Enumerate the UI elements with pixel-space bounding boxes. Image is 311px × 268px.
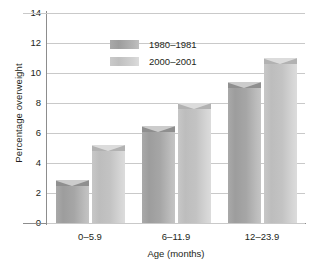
y-tick-label: 8 [11, 98, 41, 108]
y-tick-label: 12 [11, 38, 41, 48]
y-tick-label: 2 [11, 188, 41, 198]
bar-body [264, 64, 297, 223]
legend-label-2000-2001: 2000–2001 [149, 57, 197, 67]
bar-body [56, 186, 89, 224]
y-tick-label: 6 [11, 128, 41, 138]
bar-body [228, 88, 261, 223]
x-tick-label: 6–11.9 [133, 231, 219, 242]
bar-body [92, 151, 125, 223]
bar [264, 58, 297, 223]
plot-area: 1980–1981 2000–2001 [47, 13, 305, 223]
x-axis-tick-labels: 0–5.96–11.912–23.9 [47, 231, 305, 243]
legend-swatch-2000-2001 [110, 57, 139, 66]
x-axis-title: Age (months) [47, 248, 305, 259]
legend-item: 2000–2001 [110, 55, 240, 68]
y-tick-label: 4 [11, 158, 41, 168]
x-tick-label: 0–5.9 [47, 231, 133, 242]
bar [228, 82, 261, 223]
y-tick-label: 10 [11, 68, 41, 78]
legend-swatch-1980-1981 [110, 40, 139, 49]
legend: 1980–1981 2000–2001 [110, 38, 240, 72]
gridline [47, 223, 305, 224]
bar-body [178, 109, 211, 223]
chart-figure: Percentage overweight 02468101214 1980–1… [0, 0, 311, 268]
legend-item: 1980–1981 [110, 38, 240, 51]
legend-label-1980-1981: 1980–1981 [149, 40, 197, 50]
bar [178, 103, 211, 223]
y-axis-tick-labels: 02468101214 [9, 13, 41, 223]
bar [56, 180, 89, 224]
bar [142, 126, 175, 224]
bar-body [142, 132, 175, 224]
x-tick-label: 12–23.9 [219, 231, 305, 242]
bar [92, 145, 125, 223]
